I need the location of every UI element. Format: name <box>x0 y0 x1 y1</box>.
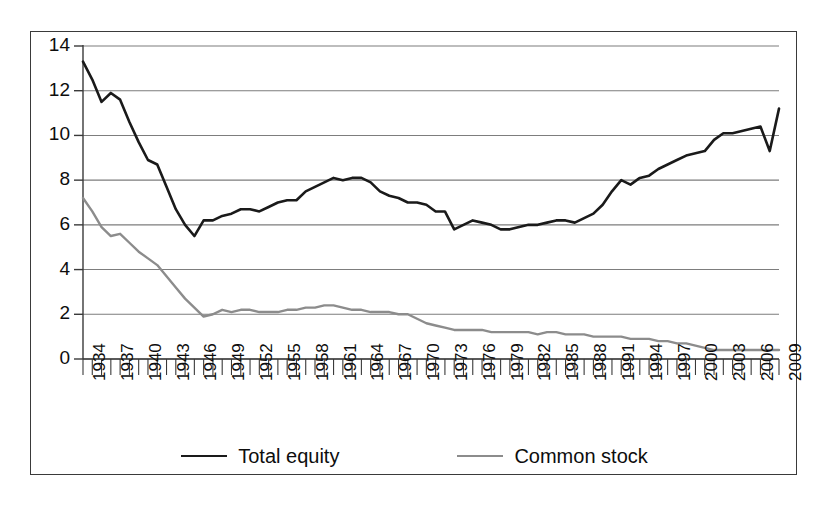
y-axis-tick-label: 10 <box>30 123 70 145</box>
y-axis-tick-label: 8 <box>30 168 70 190</box>
chart-plot-area <box>31 32 798 476</box>
x-axis-tick-label: 2003 <box>730 343 750 381</box>
x-axis-tick-label: 1952 <box>257 343 277 381</box>
x-axis-tick-label: 1946 <box>201 343 221 381</box>
x-axis-tick-label: 1997 <box>675 343 695 381</box>
y-axis-tick-label: 0 <box>30 347 70 369</box>
x-axis-tick-label: 1967 <box>396 343 416 381</box>
x-axis-tick-label: 1961 <box>341 343 361 381</box>
legend-swatch-line-icon <box>457 455 503 457</box>
x-axis-tick-label: 2000 <box>702 343 722 381</box>
y-axis-tick-label: 4 <box>30 258 70 280</box>
x-axis-tick-label: 1976 <box>480 343 500 381</box>
legend-item-0: Total equity <box>181 445 339 468</box>
chart-legend: Total equityCommon stock <box>31 436 798 476</box>
chart-frame: 02468101214 1934193719401943194619491952… <box>30 31 797 475</box>
x-axis-tick-label: 2009 <box>786 343 806 381</box>
series-line-1 <box>83 198 779 350</box>
legend-item-1: Common stock <box>457 445 647 468</box>
legend-label: Common stock <box>514 445 647 468</box>
x-axis-tick-label: 1988 <box>591 343 611 381</box>
x-axis-tick-label: 1949 <box>229 343 249 381</box>
y-axis-tick-label: 6 <box>30 213 70 235</box>
x-axis-tick-label: 1973 <box>452 343 472 381</box>
x-axis-tick-label: 1985 <box>563 343 583 381</box>
x-axis-tick-label: 1979 <box>508 343 528 381</box>
x-axis-tick-label: 1964 <box>368 343 388 381</box>
x-axis-tick-label: 1955 <box>285 343 305 381</box>
x-axis-tick-label: 1940 <box>146 343 166 381</box>
x-axis-tick-label: 1994 <box>647 343 667 381</box>
x-axis-tick-label: 1982 <box>535 343 555 381</box>
legend-label: Total equity <box>238 445 339 468</box>
x-axis-tick-label: 1943 <box>174 343 194 381</box>
y-axis-tick-label: 2 <box>30 302 70 324</box>
x-axis-tick-label: 1958 <box>313 343 333 381</box>
x-axis-tick-label: 1991 <box>619 343 639 381</box>
x-axis-tick-label: 1937 <box>118 343 138 381</box>
x-axis-tick-label: 1934 <box>90 343 110 381</box>
legend-swatch-line-icon <box>181 455 227 457</box>
x-axis-tick-label: 2006 <box>758 343 778 381</box>
x-axis-tick-label: 1970 <box>424 343 444 381</box>
series-line-0 <box>83 62 779 236</box>
y-axis-tick-label: 12 <box>30 79 70 101</box>
y-axis-tick-label: 14 <box>30 34 70 56</box>
